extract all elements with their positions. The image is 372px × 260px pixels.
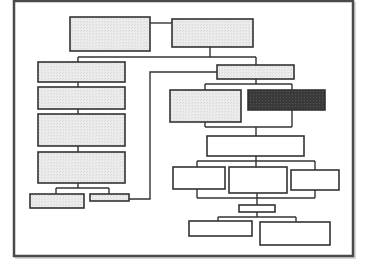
node-left-2 bbox=[38, 87, 125, 109]
node-box bbox=[170, 90, 241, 122]
node-box bbox=[217, 65, 294, 79]
node-box bbox=[207, 136, 304, 156]
node-row-c bbox=[291, 170, 339, 190]
node-top-left bbox=[70, 17, 150, 51]
diagram-canvas bbox=[0, 0, 372, 260]
node-box bbox=[172, 19, 253, 47]
node-box bbox=[173, 167, 225, 189]
node-right-light bbox=[170, 90, 241, 122]
node-row-a bbox=[173, 167, 225, 189]
node-bottom-a bbox=[189, 221, 252, 236]
node-box bbox=[38, 152, 125, 183]
node-left-sub-a bbox=[30, 194, 84, 208]
node-left-sub-b bbox=[90, 194, 129, 201]
node-wide bbox=[207, 136, 304, 156]
node-box bbox=[38, 62, 125, 82]
node-right-dark bbox=[248, 90, 325, 110]
node-left-1 bbox=[38, 62, 125, 82]
node-right-head bbox=[217, 65, 294, 79]
org-chart bbox=[0, 0, 372, 260]
node-box bbox=[291, 170, 339, 190]
node-box bbox=[229, 167, 287, 193]
node-top-right bbox=[172, 19, 253, 47]
node-left-3 bbox=[38, 114, 125, 146]
node-left-4 bbox=[38, 152, 125, 183]
node-box bbox=[70, 17, 150, 51]
node-box bbox=[248, 90, 325, 110]
node-box bbox=[38, 87, 125, 109]
node-box bbox=[38, 114, 125, 146]
node-row-b bbox=[229, 167, 287, 193]
node-small bbox=[239, 205, 275, 212]
node-box bbox=[90, 194, 129, 201]
node-bottom-b bbox=[260, 222, 330, 245]
node-box bbox=[260, 222, 330, 245]
node-box bbox=[189, 221, 252, 236]
node-box bbox=[30, 194, 84, 208]
node-box bbox=[239, 205, 275, 212]
